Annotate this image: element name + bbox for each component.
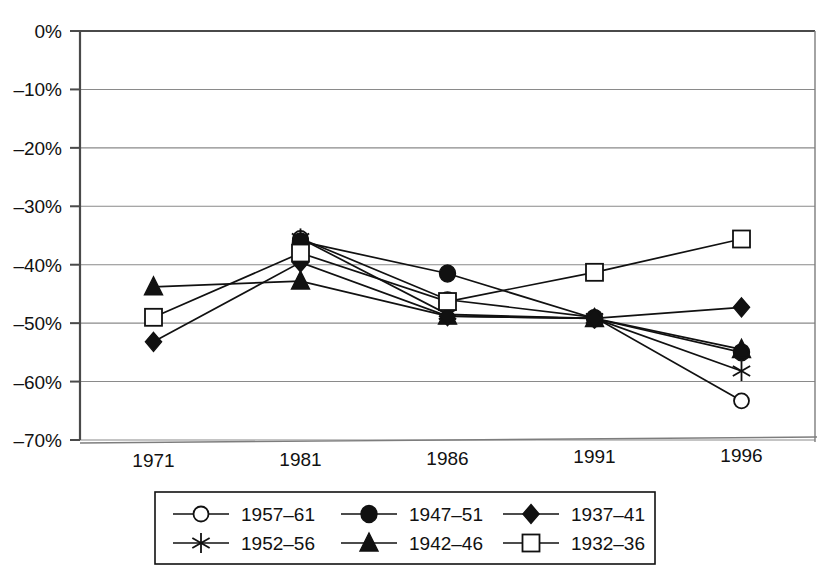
y-tick-label: –70%: [13, 430, 62, 451]
marker-open-square-legend: [523, 535, 540, 552]
marker-open-circle-legend: [194, 507, 209, 522]
x-tick-label-1981: 1981: [279, 449, 321, 470]
y-tick-label: –50%: [13, 313, 62, 334]
legend-label: 1937–41: [571, 504, 645, 525]
chart-legend: 1957–611947–511937–411952–561942–461932–…: [155, 492, 655, 564]
x-tick-label-1991: 1991: [573, 446, 615, 467]
x-tick-label-1986: 1986: [426, 448, 468, 469]
marker-open-square-1932-36-1991: [586, 264, 603, 281]
marker-filled-circle-legend: [361, 506, 377, 523]
marker-open-square-1932-36-1981: [292, 245, 309, 262]
marker-open-square-1932-36-1971: [145, 309, 162, 326]
y-tick-label: –10%: [13, 79, 62, 100]
y-tick-label: –30%: [13, 196, 62, 217]
y-tick-label: –40%: [13, 255, 62, 276]
y-tick-label: 0%: [35, 21, 63, 42]
legend-label: 1942–46: [409, 533, 483, 554]
legend-label: 1947–51: [409, 504, 483, 525]
legend-entry-1932-36[interactable]: 1932–36: [503, 533, 645, 554]
x-tick-label-1971: 1971: [132, 450, 174, 471]
legend-label: 1932–36: [571, 533, 645, 554]
marker-open-square-1932-36-1986: [439, 293, 456, 310]
y-tick-label: –60%: [13, 372, 62, 393]
legend-label: 1952–56: [241, 533, 315, 554]
y-tick-label: –20%: [13, 138, 62, 159]
legend-label: 1957–61: [241, 504, 315, 525]
chart-figure: 0%–10%–20%–30%–40%–50%–60%–70% 197119811…: [0, 0, 833, 569]
x-tick-label-1996: 1996: [720, 445, 762, 466]
chart-background: [0, 0, 833, 569]
marker-filled-circle-1947-51-1986: [440, 265, 456, 282]
marker-open-circle-1957-61-1996: [734, 393, 749, 408]
marker-open-square-1932-36-1996: [733, 231, 750, 248]
line-chart: 0%–10%–20%–30%–40%–50%–60%–70% 197119811…: [0, 0, 833, 569]
